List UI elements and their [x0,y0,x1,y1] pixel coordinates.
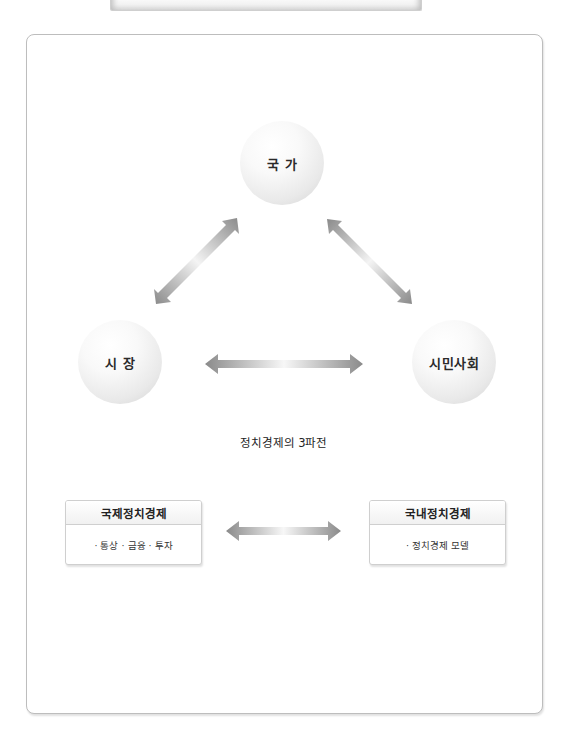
box-international-title: 국제정치경제 [66,501,201,525]
node-state: 국 가 [240,121,324,205]
arrow-state-market [154,218,239,304]
box-domestic-title: 국내정치경제 [370,501,505,525]
node-market: 시 장 [78,320,162,404]
node-civil-society: 시민사회 [412,320,496,404]
diagram-caption: 정치경제의 3파전 [0,434,567,450]
node-state-label: 국 가 [267,154,297,173]
arrow-international-domestic [226,521,341,541]
box-domestic-items: · 정치경제 모델 [370,525,505,564]
box-international-political-economy: 국제정치경제 · 통상 · 금융 · 투자 [65,500,202,565]
node-market-label: 시 장 [105,353,135,372]
node-civil-society-label: 시민사회 [429,353,479,372]
arrow-market-civil-society [205,354,363,374]
box-domestic-political-economy: 국내정치경제 · 정치경제 모델 [369,500,506,565]
box-international-items: · 통상 · 금융 · 투자 [66,525,201,564]
arrow-state-civil-society [327,219,412,304]
